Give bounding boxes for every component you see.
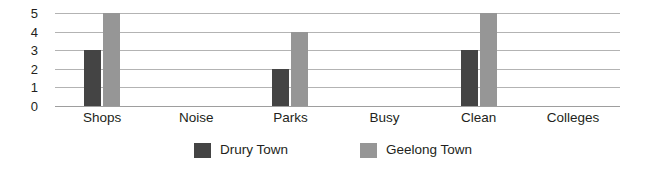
x-axis-tick-label: Parks bbox=[243, 108, 337, 128]
y-axis-tick-label: 0 bbox=[31, 100, 38, 113]
gridline-0 bbox=[55, 106, 620, 107]
bar[interactable] bbox=[84, 50, 101, 106]
y-axis-tick-label: 2 bbox=[31, 62, 38, 75]
x-axis-tick-label: Colleges bbox=[526, 108, 620, 128]
bar[interactable] bbox=[272, 69, 289, 106]
bar-group bbox=[243, 13, 337, 106]
bar-group bbox=[149, 13, 243, 106]
y-axis-tick-label: 5 bbox=[31, 7, 38, 20]
bar-group bbox=[432, 13, 526, 106]
y-axis-tick-label: 1 bbox=[31, 81, 38, 94]
bar-group bbox=[338, 13, 432, 106]
bar-group bbox=[526, 13, 620, 106]
legend-item[interactable]: Drury Town bbox=[194, 143, 288, 158]
bar[interactable] bbox=[103, 13, 120, 106]
chart-legend: Drury TownGeelong Town bbox=[0, 138, 666, 162]
y-axis-tick-label: 4 bbox=[31, 25, 38, 38]
x-axis-tick-label: Clean bbox=[432, 108, 526, 128]
bar[interactable] bbox=[461, 50, 478, 106]
bar[interactable] bbox=[291, 32, 308, 106]
x-axis-tick-label: Noise bbox=[149, 108, 243, 128]
legend-label: Drury Town bbox=[220, 143, 288, 157]
x-axis: ShopsNoiseParksBusyCleanColleges bbox=[55, 108, 620, 130]
legend-swatch-icon bbox=[194, 143, 211, 158]
x-axis-tick-label: Shops bbox=[55, 108, 149, 128]
legend-swatch-icon bbox=[360, 143, 377, 158]
plot-area bbox=[55, 13, 620, 106]
bar-group bbox=[55, 13, 149, 106]
legend-item[interactable]: Geelong Town bbox=[360, 143, 472, 158]
y-axis: 012345 bbox=[0, 13, 48, 106]
bar-chart: 012345 ShopsNoiseParksBusyCleanColleges … bbox=[0, 0, 666, 173]
legend-label: Geelong Town bbox=[386, 143, 472, 157]
bars-layer bbox=[55, 13, 620, 106]
y-axis-tick-label: 3 bbox=[31, 44, 38, 57]
x-axis-tick-label: Busy bbox=[338, 108, 432, 128]
bar[interactable] bbox=[480, 13, 497, 106]
